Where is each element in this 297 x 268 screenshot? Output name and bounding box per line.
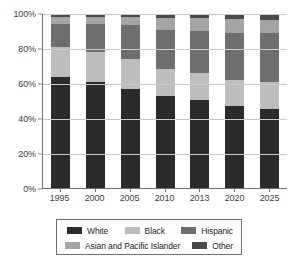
legend: White Black Hispanic Asian and Pacific I… — [56, 219, 242, 255]
legend-label-white: White — [87, 226, 108, 236]
legend-item-asian-pacific-islander[interactable]: Asian and Pacific Islander — [65, 241, 180, 251]
x-tick-label: 2010 — [147, 193, 182, 211]
x-axis: 1995200020052010201320202025 — [42, 193, 287, 211]
legend-item-other[interactable]: Other — [192, 241, 233, 251]
gridline — [43, 154, 287, 155]
stacked-bar-2013[interactable] — [190, 14, 209, 188]
y-axis: 0%20%40%60%80%100% — [0, 0, 42, 200]
x-tick-label: 1995 — [42, 193, 77, 211]
x-tick-label: 2005 — [112, 193, 147, 211]
bar-segment-black — [156, 69, 175, 96]
gridline — [43, 119, 287, 120]
x-tickmark — [130, 188, 131, 192]
x-tick-label: 2000 — [77, 193, 112, 211]
bar-slot-2000 — [78, 14, 113, 188]
x-tickmark — [95, 188, 96, 192]
stacked-bar-1995[interactable] — [51, 14, 70, 188]
x-tick-label: 2025 — [252, 193, 287, 211]
stacked-bar-chart: 0%20%40%60%80%100% 199520002005201020132… — [0, 0, 297, 268]
plot-wrapper: 0%20%40%60%80%100% 199520002005201020132… — [0, 0, 297, 200]
other-swatch-icon — [192, 242, 207, 249]
asian-pacific-islander-swatch-icon — [65, 242, 80, 249]
y-tick-label: 20% — [18, 149, 36, 159]
stacked-bar-2025[interactable] — [260, 14, 279, 188]
bar-segment-black — [51, 47, 70, 77]
gridline — [43, 49, 287, 50]
y-tick-label: 40% — [18, 114, 36, 124]
bar-segment-asian-and-pacific-islander — [121, 17, 140, 25]
stacked-bar-2000[interactable] — [86, 14, 105, 188]
bar-segment-hispanic — [260, 33, 279, 82]
legend-label-asian-pacific-islander: Asian and Pacific Islander — [85, 241, 180, 251]
y-tick-label: 60% — [18, 79, 36, 89]
bar-slot-1995 — [43, 14, 78, 188]
bar-slot-2005 — [113, 14, 148, 188]
legend-item-hispanic[interactable]: Hispanic — [181, 226, 233, 236]
legend-row-2: Asian and Pacific Islander Other — [61, 238, 237, 253]
x-tickmark — [165, 188, 166, 192]
bar-segment-white — [156, 96, 175, 188]
bar-segment-asian-and-pacific-islander — [190, 18, 209, 30]
bar-segment-hispanic — [51, 24, 70, 47]
stacked-bar-2010[interactable] — [156, 14, 175, 188]
bar-segment-white — [260, 109, 279, 188]
y-tick-label: 100% — [13, 9, 36, 19]
legend-label-hispanic: Hispanic — [201, 226, 233, 236]
bar-segment-white — [86, 82, 105, 188]
x-tickmark — [60, 188, 61, 192]
x-tick-label: 2013 — [182, 193, 217, 211]
gridline — [43, 14, 287, 15]
bar-slot-2020 — [217, 14, 252, 188]
bar-segment-black — [190, 73, 209, 100]
bar-slot-2013 — [182, 14, 217, 188]
x-tickmark — [199, 188, 200, 192]
bar-segment-asian-and-pacific-islander — [86, 17, 105, 25]
bar-segment-hispanic — [121, 25, 140, 59]
x-tickmark — [234, 188, 235, 192]
stacked-bar-2020[interactable] — [225, 14, 244, 188]
bar-slot-2010 — [148, 14, 183, 188]
hispanic-swatch-icon — [181, 227, 196, 234]
y-tick-label: 0% — [23, 184, 36, 194]
bar-segment-asian-and-pacific-islander — [225, 19, 244, 33]
plot-area — [42, 14, 287, 189]
black-swatch-icon — [125, 227, 140, 234]
bar-segment-asian-and-pacific-islander — [156, 18, 175, 29]
legend-item-white[interactable]: White — [67, 226, 108, 236]
x-tick-label: 2020 — [217, 193, 252, 211]
legend-row-1: White Black Hispanic — [61, 223, 237, 238]
bar-segment-asian-and-pacific-islander — [260, 20, 279, 33]
legend-label-black: Black — [145, 226, 165, 236]
bar-segment-white — [121, 89, 140, 188]
bar-segment-hispanic — [190, 31, 209, 74]
gridline — [43, 84, 287, 85]
bar-group — [43, 14, 287, 188]
legend-item-black[interactable]: Black — [125, 226, 165, 236]
clipped-caption — [0, 260, 297, 268]
bar-segment-white — [51, 77, 70, 188]
x-tickmark — [269, 188, 270, 192]
bar-segment-black — [86, 52, 105, 82]
stacked-bar-2005[interactable] — [121, 14, 140, 188]
bar-segment-asian-and-pacific-islander — [51, 17, 70, 25]
legend-label-other: Other — [212, 241, 233, 251]
bar-segment-black — [260, 82, 279, 109]
y-tick-label: 80% — [18, 44, 36, 54]
white-swatch-icon — [67, 227, 82, 234]
bar-segment-white — [190, 100, 209, 188]
bar-segment-hispanic — [225, 33, 244, 80]
bar-slot-2025 — [252, 14, 287, 188]
